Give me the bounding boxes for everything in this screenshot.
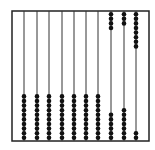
bead-bottom[interactable] <box>96 126 101 131</box>
bead-bottom[interactable] <box>72 113 77 118</box>
bead-bottom[interactable] <box>122 136 127 141</box>
bead-bottom[interactable] <box>96 99 101 104</box>
bead-bottom[interactable] <box>47 113 52 118</box>
bead-bottom[interactable] <box>47 108 52 113</box>
bead-bottom[interactable] <box>109 113 114 118</box>
bead-bottom[interactable] <box>60 122 65 127</box>
bead-bottom[interactable] <box>109 131 114 136</box>
bead-bottom[interactable] <box>122 122 127 127</box>
bead-bottom[interactable] <box>47 131 52 136</box>
bead-bottom[interactable] <box>60 113 65 118</box>
bead-bottom[interactable] <box>60 126 65 131</box>
bead-bottom[interactable] <box>109 126 114 131</box>
bead-bottom[interactable] <box>72 94 77 99</box>
bead-top[interactable] <box>134 12 139 17</box>
bead-top[interactable] <box>109 26 114 31</box>
bead-bottom[interactable] <box>72 103 77 108</box>
bead-bottom[interactable] <box>22 94 27 99</box>
bead-bottom[interactable] <box>84 136 89 141</box>
bead-bottom[interactable] <box>35 122 40 127</box>
bead-bottom[interactable] <box>72 126 77 131</box>
bead-bottom[interactable] <box>22 122 27 127</box>
bead-bottom[interactable] <box>35 117 40 122</box>
bead-top[interactable] <box>122 21 127 26</box>
bead-bottom[interactable] <box>35 99 40 104</box>
bead-top[interactable] <box>122 12 127 17</box>
bead-top[interactable] <box>134 30 139 35</box>
bead-bottom[interactable] <box>60 99 65 104</box>
bead-bottom[interactable] <box>60 136 65 141</box>
bead-bottom[interactable] <box>22 99 27 104</box>
bead-bottom[interactable] <box>22 131 27 136</box>
bead-bottom[interactable] <box>22 113 27 118</box>
bead-bottom[interactable] <box>134 131 139 136</box>
bead-bottom[interactable] <box>84 94 89 99</box>
bead-top[interactable] <box>134 21 139 26</box>
bead-bottom[interactable] <box>22 103 27 108</box>
bead-bottom[interactable] <box>35 94 40 99</box>
bead-top[interactable] <box>134 40 139 45</box>
bead-bottom[interactable] <box>22 108 27 113</box>
bead-bottom[interactable] <box>96 136 101 141</box>
bead-bottom[interactable] <box>60 108 65 113</box>
bead-bottom[interactable] <box>84 126 89 131</box>
bead-bottom[interactable] <box>35 108 40 113</box>
bead-bottom[interactable] <box>84 113 89 118</box>
bead-bottom[interactable] <box>22 126 27 131</box>
bead-top[interactable] <box>109 17 114 22</box>
bead-bottom[interactable] <box>109 122 114 127</box>
bead-bottom[interactable] <box>134 136 139 141</box>
bead-bottom[interactable] <box>35 103 40 108</box>
bead-bottom[interactable] <box>72 131 77 136</box>
bead-bottom[interactable] <box>47 117 52 122</box>
bead-top[interactable] <box>134 26 139 31</box>
bead-bottom[interactable] <box>47 94 52 99</box>
bead-bottom[interactable] <box>47 99 52 104</box>
bead-bottom[interactable] <box>84 122 89 127</box>
bead-bottom[interactable] <box>22 117 27 122</box>
bead-bottom[interactable] <box>84 131 89 136</box>
bead-bottom[interactable] <box>47 103 52 108</box>
bead-bottom[interactable] <box>109 117 114 122</box>
bead-bottom[interactable] <box>122 131 127 136</box>
bead-bottom[interactable] <box>47 122 52 127</box>
bead-bottom[interactable] <box>35 136 40 141</box>
bead-bottom[interactable] <box>35 131 40 136</box>
bead-top[interactable] <box>134 44 139 49</box>
bead-bottom[interactable] <box>60 131 65 136</box>
bead-bottom[interactable] <box>47 136 52 141</box>
bead-bottom[interactable] <box>122 113 127 118</box>
bead-bottom[interactable] <box>96 94 101 99</box>
bead-bottom[interactable] <box>96 113 101 118</box>
bead-bottom[interactable] <box>96 117 101 122</box>
bead-bottom[interactable] <box>109 136 114 141</box>
bead-bottom[interactable] <box>84 103 89 108</box>
bead-bottom[interactable] <box>72 117 77 122</box>
bead-bottom[interactable] <box>72 136 77 141</box>
bead-bottom[interactable] <box>35 126 40 131</box>
bead-bottom[interactable] <box>122 126 127 131</box>
bead-bottom[interactable] <box>22 136 27 141</box>
bead-top[interactable] <box>109 21 114 26</box>
bead-top[interactable] <box>134 35 139 40</box>
bead-top[interactable] <box>134 17 139 22</box>
bead-bottom[interactable] <box>72 122 77 127</box>
bead-bottom[interactable] <box>96 131 101 136</box>
bead-bottom[interactable] <box>72 108 77 113</box>
bead-top[interactable] <box>122 17 127 22</box>
bead-bottom[interactable] <box>72 99 77 104</box>
bead-bottom[interactable] <box>122 117 127 122</box>
bead-bottom[interactable] <box>60 117 65 122</box>
bead-bottom[interactable] <box>84 99 89 104</box>
bead-bottom[interactable] <box>84 108 89 113</box>
bead-bottom[interactable] <box>60 94 65 99</box>
bead-bottom[interactable] <box>84 117 89 122</box>
bead-bottom[interactable] <box>96 122 101 127</box>
bead-bottom[interactable] <box>47 126 52 131</box>
bead-bottom[interactable] <box>96 108 101 113</box>
bead-bottom[interactable] <box>96 103 101 108</box>
bead-bottom[interactable] <box>122 108 127 113</box>
bead-top[interactable] <box>109 12 114 17</box>
bead-bottom[interactable] <box>35 113 40 118</box>
bead-bottom[interactable] <box>60 103 65 108</box>
